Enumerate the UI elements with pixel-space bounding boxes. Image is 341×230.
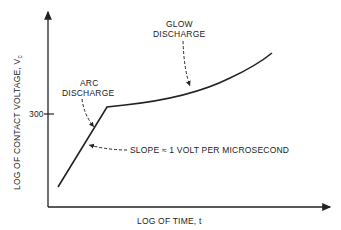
voltage-curve — [58, 53, 272, 187]
glow-label-line2: DISCHARGE — [153, 29, 205, 39]
y-tick-label: 300 — [29, 109, 44, 119]
arc-label-line1: ARC — [80, 78, 99, 88]
slope-pointer-arrow — [89, 145, 127, 150]
x-axis-label: LOG OF TIME, t — [137, 216, 202, 226]
y-axis-label-subscript: c — [16, 55, 23, 59]
arc-label-line2: DISCHARGE — [62, 88, 114, 98]
voltage-time-diagram: 300 LOG OF CONTACT VOLTAGE, Vc LOG OF TI… — [0, 0, 341, 230]
arc-pointer-arrow — [82, 99, 94, 127]
glow-pointer-arrow — [183, 41, 190, 86]
slope-label: SLOPE ≈ 1 VOLT PER MICROSECOND — [130, 145, 289, 155]
glow-label-line1: GLOW — [166, 19, 193, 29]
y-axis-label: LOG OF CONTACT VOLTAGE, Vc — [12, 55, 23, 190]
